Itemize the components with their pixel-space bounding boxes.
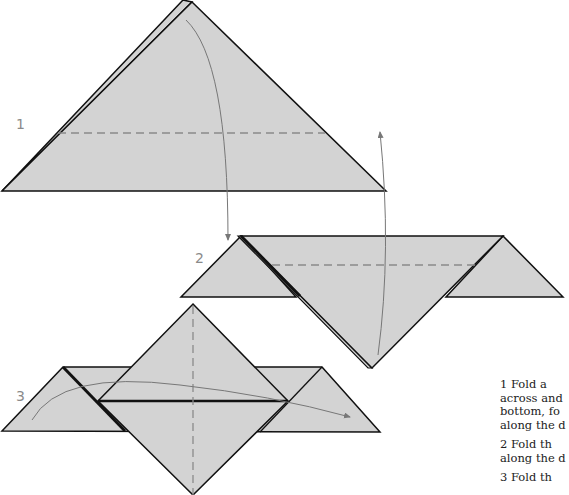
instruction-1: 1 Fold a across and bottom, fo along the… (500, 378, 569, 432)
step-3-figure (2, 304, 380, 495)
origami-diagram (0, 0, 569, 495)
step-1-figure (2, 0, 386, 240)
step-label-2: 2 (195, 250, 204, 266)
step-label-1: 1 (16, 116, 25, 132)
front-triangle (2, 2, 386, 191)
instruction-3: 3 Fold th (500, 471, 569, 485)
instructions-text: 1 Fold a across and bottom, fo along the… (500, 378, 569, 491)
instruction-2: 2 Fold th along the d (500, 438, 569, 465)
central-triangle (241, 236, 503, 368)
step-label-3: 3 (16, 388, 25, 404)
